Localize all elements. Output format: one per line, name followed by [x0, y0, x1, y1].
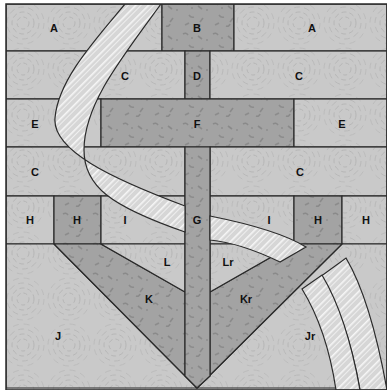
- label-f: F: [194, 118, 201, 130]
- label-a-right: A: [308, 22, 316, 34]
- label-b: B: [193, 22, 201, 34]
- label-kr: Kr: [240, 293, 253, 305]
- label-jr: Jr: [305, 330, 316, 342]
- label-h-outer-right: H: [362, 214, 370, 226]
- label-c-row2-left: C: [121, 70, 129, 82]
- label-c-row4-right: C: [296, 166, 304, 178]
- label-e-left: E: [31, 118, 38, 130]
- label-h-inner-left: H: [73, 214, 81, 226]
- label-i-right: I: [267, 214, 270, 226]
- label-c-row2-right: C: [295, 70, 303, 82]
- label-l: L: [164, 256, 171, 268]
- label-a-left: A: [50, 22, 58, 34]
- label-k: K: [145, 293, 153, 305]
- label-c-row4-left: C: [31, 166, 39, 178]
- label-j: J: [55, 330, 61, 342]
- label-e-right: E: [338, 118, 345, 130]
- label-i-left: I: [123, 214, 126, 226]
- piece-g: [185, 147, 210, 388]
- quilt-block-diagram: A B A C D C E F E C C H H I G I H H L Lr…: [0, 0, 387, 390]
- label-h-outer-left: H: [26, 214, 34, 226]
- label-d: D: [193, 70, 201, 82]
- label-h-inner-right: H: [314, 214, 322, 226]
- label-lr: Lr: [223, 256, 235, 268]
- label-g: G: [193, 214, 202, 226]
